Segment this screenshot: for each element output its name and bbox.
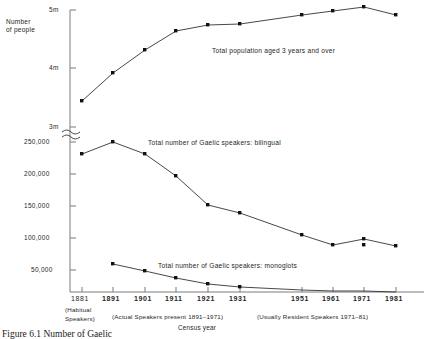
series-label-bilingual: Total number of Gaelic speakers: bilingu… (148, 139, 281, 146)
x-tick-label-1961: 1961 (322, 295, 340, 302)
y-tick-label-100000: 100,000 (24, 234, 50, 241)
note-habitual-speakers-line1: (Habitual (65, 306, 92, 313)
series-label-total-population: Total population aged 3 years and over (212, 47, 335, 54)
series-bilingual-markers (80, 140, 397, 247)
series-label-monoglots: Total number of Gaelic speakers: monoglo… (158, 262, 297, 269)
y-tick-label-150000: 150,000 (24, 202, 50, 209)
y-axis-title-line1: Number (6, 18, 35, 26)
y-tick-marks-upper (70, 10, 76, 127)
axis-break-symbol (62, 130, 80, 139)
x-tick-label-1971: 1971 (353, 295, 371, 302)
x-tick-label-1901: 1901 (134, 295, 152, 302)
x-tick-label-1981: 1981 (385, 295, 403, 302)
y-tick-label-3m: 3m (49, 123, 59, 130)
y-axis-title: Number of people (6, 18, 35, 34)
x-tick-label-1911: 1911 (165, 295, 183, 302)
y-tick-label-250000: 250,000 (24, 138, 50, 145)
y-tick-label-200000: 200,000 (24, 170, 50, 177)
x-tick-label-1951: 1951 (291, 295, 309, 302)
x-axis-title: Census year (178, 324, 216, 331)
x-tick-label-1921: 1921 (197, 295, 215, 302)
y-axis-title-line2: of people (6, 26, 35, 34)
y-tick-label-4m: 4m (49, 64, 59, 71)
series-bilingual-line (82, 142, 396, 246)
figure-caption: Figure 6.1 Number of Gaelic (2, 329, 112, 339)
note-habitual-speakers-line2: Speakers) (65, 315, 95, 322)
x-tick-label-1891: 1891 (102, 295, 120, 302)
y-tick-label-50000: 50,000 (31, 266, 53, 273)
series-total-population-line (82, 7, 396, 101)
x-tick-label-1881: 1881 (71, 295, 89, 302)
note-usually-resident-speakers: (Usually Resident Speakers 1971–81) (257, 313, 368, 320)
x-tick-label-1931: 1931 (229, 295, 247, 302)
note-actual-speakers: (Actual Speakers present 1891–1971) (112, 313, 223, 320)
y-tick-marks-lower (70, 142, 76, 270)
y-tick-label-5m: 5m (49, 6, 59, 13)
